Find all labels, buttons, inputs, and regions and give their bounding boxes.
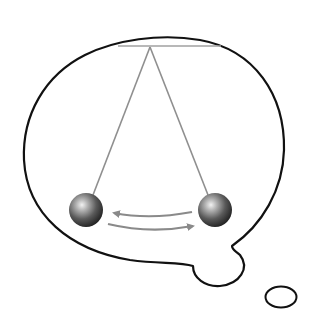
figure-canvas: [0, 0, 310, 315]
pendulum-string-left: [93, 47, 150, 195]
pendulum-ball-left: [69, 193, 103, 227]
swing-right-arrow-icon: [108, 224, 193, 230]
pendulum-thought-diagram: [0, 0, 310, 315]
pendulum-ball-right: [198, 193, 232, 227]
small-thought-bubble: [266, 287, 297, 308]
thought-bubble-outline: [24, 37, 284, 286]
swing-left-arrow-icon: [114, 212, 192, 216]
pendulum-string-right: [150, 47, 208, 195]
